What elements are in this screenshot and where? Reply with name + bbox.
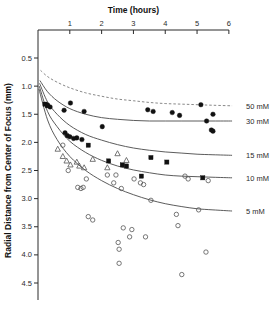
data-point	[121, 226, 125, 230]
data-point	[86, 214, 90, 218]
data-point	[201, 176, 205, 180]
x-tick-label: 2	[100, 19, 104, 28]
data-point	[75, 136, 80, 141]
y-tick-label: 2.0	[22, 138, 32, 147]
series-label-10-mm: 10 mM	[246, 174, 269, 183]
data-point	[86, 143, 90, 147]
data-point	[211, 129, 216, 134]
data-point	[116, 240, 120, 244]
labels-layer: 1234560.51.01.52.02.53.03.54.04.5Time (h…	[3, 5, 269, 288]
data-point	[204, 119, 209, 124]
series-curve-50-mm	[41, 70, 233, 105]
data-point	[211, 112, 216, 117]
data-point	[170, 110, 175, 115]
data-point	[107, 159, 111, 163]
data-point	[117, 247, 121, 251]
x-tick-label: 5	[195, 19, 199, 28]
data-point	[143, 235, 147, 239]
data-point	[199, 102, 204, 107]
data-point	[112, 181, 116, 185]
x-axis-title: Time (hours)	[108, 5, 159, 15]
y-tick-label: 1.5	[22, 110, 32, 119]
data-point	[117, 261, 121, 265]
data-point	[145, 107, 150, 112]
series-curve-15-mm	[40, 83, 232, 155]
data-point	[176, 223, 180, 227]
data-point	[105, 165, 110, 170]
data-point	[82, 109, 87, 114]
y-tick-label: 1.0	[22, 82, 32, 91]
data-point	[80, 137, 85, 142]
series-curve-30-mm	[40, 81, 232, 122]
data-point	[115, 151, 120, 156]
data-point	[177, 113, 182, 118]
series-label-5-mm: 5 mM	[246, 207, 265, 216]
data-point	[186, 177, 190, 181]
data-point	[60, 154, 65, 159]
y-tick-label: 0.5	[22, 54, 32, 63]
data-point	[174, 212, 178, 216]
data-point	[91, 218, 95, 222]
data-point	[196, 208, 200, 212]
series-label-15-mm: 15 mM	[246, 151, 269, 160]
y-tick-label: 4.0	[22, 250, 32, 259]
data-point	[55, 146, 60, 151]
x-tick-label: 3	[131, 19, 135, 28]
data-point	[124, 164, 128, 168]
data-point	[105, 173, 109, 177]
data-point	[120, 163, 124, 167]
data-point	[66, 168, 70, 172]
data-point	[62, 108, 67, 113]
y-tick-label: 3.5	[22, 222, 32, 231]
data-point	[130, 227, 134, 231]
data-point	[100, 124, 105, 129]
data-point	[149, 155, 153, 159]
data-point	[68, 101, 73, 106]
data-point	[45, 104, 49, 108]
curves-layer	[39, 70, 232, 211]
data-point	[124, 157, 129, 162]
chart-svg: 1234560.51.01.52.02.53.03.54.04.5Time (h…	[0, 0, 280, 315]
y-tick-label: 4.5	[22, 279, 32, 288]
points-layer	[43, 101, 215, 277]
y-tick-label: 2.5	[22, 166, 32, 175]
data-point	[151, 109, 156, 114]
axes-layer	[34, 30, 229, 300]
y-axis-title: Radial Distance from Center of Focus (mm…	[3, 83, 13, 258]
data-point	[180, 272, 184, 276]
x-tick-label: 1	[68, 19, 72, 28]
x-tick-label: 4	[163, 19, 167, 28]
data-point	[139, 174, 143, 178]
data-point	[165, 160, 169, 164]
y-tick-label: 3.0	[22, 194, 32, 203]
series-label-50-mm: 50 mM	[246, 102, 269, 111]
data-point	[206, 178, 210, 182]
data-point	[127, 235, 131, 239]
series-curve-10-mm	[39, 86, 232, 178]
data-point	[84, 177, 88, 181]
chart-figure: 1234560.51.01.52.02.53.03.54.04.5Time (h…	[0, 0, 280, 315]
data-point	[204, 250, 208, 254]
data-point	[132, 177, 136, 181]
data-point	[114, 173, 118, 177]
series-label-30-mm: 30 mM	[246, 117, 269, 126]
x-tick-label: 6	[227, 19, 231, 28]
